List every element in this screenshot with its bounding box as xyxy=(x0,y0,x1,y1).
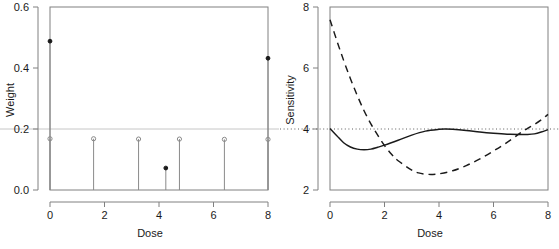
y-tick-label: 2 xyxy=(303,184,309,196)
x-tick-label: 8 xyxy=(545,209,551,221)
dashed-curve xyxy=(330,20,548,175)
x-tick-label: 4 xyxy=(436,209,442,221)
left-plot-axes: 024680.00.20.40.6 xyxy=(0,1,279,221)
solid-curve xyxy=(330,128,548,149)
y-tick-label: 0.6 xyxy=(14,1,29,13)
x-tick-label: 4 xyxy=(156,209,162,221)
plot-frame xyxy=(330,7,548,190)
x-tick-label: 0 xyxy=(47,209,53,221)
x-tick-label: 0 xyxy=(327,209,333,221)
filled-point-marker xyxy=(164,166,168,170)
filled-point-marker xyxy=(266,56,270,60)
y-tick-label: 0.0 xyxy=(14,184,29,196)
y-tick-label: 8 xyxy=(303,1,309,13)
y-tick-label: 0.4 xyxy=(14,62,29,74)
left-y-axis-label: Weight xyxy=(4,83,16,117)
y-tick-label: 6 xyxy=(303,62,309,74)
x-tick-label: 6 xyxy=(210,209,216,221)
right-y-axis-label: Sensitivity xyxy=(284,75,296,125)
y-tick-label: 0.2 xyxy=(14,123,29,135)
filled-point-marker xyxy=(48,39,52,43)
weight-plot-svg: 024680.00.20.40.6 Dose Weight xyxy=(0,0,279,249)
sensitivity-plot-svg: 024682468 Dose Sensitivity xyxy=(280,0,559,249)
x-tick-label: 8 xyxy=(265,209,271,221)
right-plot-axes: 024682468 xyxy=(280,1,559,221)
plot-frame xyxy=(50,7,268,190)
weight-vs-dose-panel: 024680.00.20.40.6 Dose Weight xyxy=(0,0,279,249)
x-tick-label: 6 xyxy=(490,209,496,221)
right-x-axis-label: Dose xyxy=(417,227,443,239)
figure-container: 024680.00.20.40.6 Dose Weight 024682468 … xyxy=(0,0,559,249)
right-plot-data xyxy=(330,20,548,175)
x-tick-label: 2 xyxy=(101,209,107,221)
left-plot-data xyxy=(48,39,270,190)
sensitivity-vs-dose-panel: 024682468 Dose Sensitivity xyxy=(280,0,559,249)
left-x-axis-label: Dose xyxy=(137,227,163,239)
y-tick-label: 4 xyxy=(303,123,309,135)
x-tick-label: 2 xyxy=(381,209,387,221)
